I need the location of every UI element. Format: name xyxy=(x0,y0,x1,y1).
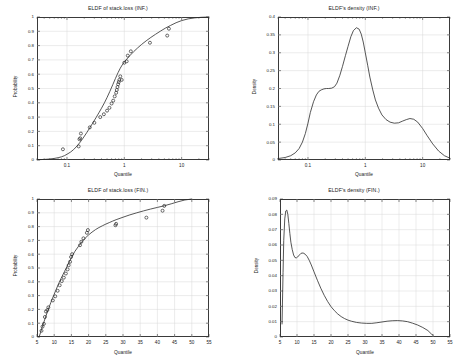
panel-title-top-left: ELDF of stack.loss (INF.) xyxy=(0,5,236,11)
series-line xyxy=(282,210,433,335)
eldf-figure: ELDF of stack.loss (INF.) Probability Qu… xyxy=(0,0,472,363)
series-line xyxy=(278,28,450,159)
y-tick-label: 1 xyxy=(3,196,34,201)
y-tick-label: 0.02 xyxy=(246,304,277,309)
y-tick-label: 0.03 xyxy=(246,288,277,293)
panel-bottom-left: ELDF of stack.loss (FIN.) Probability Qu… xyxy=(0,181,236,363)
y-tick-label: 0 xyxy=(246,334,277,339)
x-tick-label: 0.1 xyxy=(298,163,318,168)
x-axis-label-bottom-right: Quantile xyxy=(280,350,450,355)
panel-top-left: ELDF of stack.loss (INF.) Probability Qu… xyxy=(0,0,236,182)
y-tick-label: 0.01 xyxy=(246,319,277,324)
x-tick-label: 10 xyxy=(172,163,192,168)
y-tick-label: 0.7 xyxy=(3,57,34,62)
y-tick-label: 0.3 xyxy=(244,50,275,55)
y-tick-label: 0.08 xyxy=(246,212,277,217)
panel-bottom-right: ELDF's density (FIN.) Density Quantile 0… xyxy=(236,181,472,363)
y-tick-label: 0.3 xyxy=(3,115,34,120)
plot-svg-bottom-right xyxy=(280,199,450,337)
panel-title-top-right: ELDF's density (INF.) xyxy=(236,5,472,11)
y-tick-label: 0.04 xyxy=(246,273,277,278)
y-tick-label: 0.6 xyxy=(3,252,34,257)
x-tick-label: 1 xyxy=(355,163,375,168)
y-tick-label: 1 xyxy=(3,14,34,19)
y-tick-label: 0.07 xyxy=(246,227,277,232)
y-tick-label: 0.25 xyxy=(244,68,275,73)
y-tick-label: 0.35 xyxy=(244,32,275,37)
y-tick-label: 0.1 xyxy=(3,321,34,326)
y-tick-label: 0.9 xyxy=(3,210,34,215)
x-tick-label: 10 xyxy=(413,163,433,168)
y-tick-label: 0.05 xyxy=(246,258,277,263)
y-tick-label: 0.5 xyxy=(3,86,34,91)
x-axis-label-top-left: Quantile xyxy=(37,172,209,177)
y-tick-label: 0.2 xyxy=(3,307,34,312)
panel-top-right: ELDF's density (INF.) Density Quantile 0… xyxy=(236,0,472,182)
y-tick-label: 0.2 xyxy=(3,129,34,134)
y-tick-label: 0.9 xyxy=(3,29,34,34)
gridlines xyxy=(37,17,209,160)
x-axis-label-bottom-left: Quantile xyxy=(37,350,209,355)
y-tick-label: 0.7 xyxy=(3,238,34,243)
y-tick-label: 0.5 xyxy=(3,265,34,270)
plot-svg-top-right xyxy=(278,17,450,160)
series-points xyxy=(40,204,166,332)
x-tick-label: 55 xyxy=(440,340,460,345)
y-tick-label: 0.8 xyxy=(3,224,34,229)
y-tick-label: 0.8 xyxy=(3,43,34,48)
y-tick-label: 0.1 xyxy=(244,122,275,127)
y-tick-label: 0.15 xyxy=(244,104,275,109)
y-tick-label: 0 xyxy=(3,157,34,162)
x-tick-label: 1 xyxy=(114,163,134,168)
y-tick-label: 0.4 xyxy=(244,14,275,19)
y-tick-label: 0.09 xyxy=(246,196,277,201)
y-tick-label: 0.4 xyxy=(3,100,34,105)
x-tick-label: 0.1 xyxy=(57,163,77,168)
plot-svg-top-left xyxy=(37,17,209,160)
y-axis-label-bottom-right: Density xyxy=(254,244,259,288)
y-tick-label: 0.05 xyxy=(244,140,275,145)
panel-title-bottom-left: ELDF of stack.loss (FIN.) xyxy=(0,187,236,193)
panel-title-bottom-right: ELDF's density (FIN.) xyxy=(236,187,472,193)
y-tick-label: 0 xyxy=(244,157,275,162)
x-tick-label: 55 xyxy=(199,340,219,345)
plot-svg-bottom-left xyxy=(37,199,209,337)
y-tick-label: 0.06 xyxy=(246,242,277,247)
y-tick-label: 0.3 xyxy=(3,293,34,298)
y-tick-label: 0.1 xyxy=(3,143,34,148)
y-tick-label: 0.2 xyxy=(244,86,275,91)
x-axis-label-top-right: Quantile xyxy=(278,172,450,177)
gridlines xyxy=(280,199,450,337)
gridlines xyxy=(37,199,209,337)
y-tick-label: 0.6 xyxy=(3,72,34,77)
y-tick-label: 0 xyxy=(3,334,34,339)
y-tick-label: 0.4 xyxy=(3,279,34,284)
